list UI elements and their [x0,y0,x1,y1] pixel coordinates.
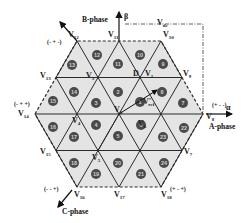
region-4: 4 [91,120,101,130]
region-5: 5 [113,131,123,141]
svg-text:V16: V16 [74,190,85,200]
svg-text:D: D [133,69,139,78]
svg-text:V7: V7 [184,147,193,157]
region-22: 22 [179,123,189,133]
svg-text:19: 19 [93,171,99,177]
region-14: 14 [69,87,79,97]
c-phase-label: C-phase [62,207,89,216]
svg-text:23: 23 [160,134,166,140]
svg-text:V17: V17 [114,190,125,200]
a-phase-label: A-phase [209,122,236,131]
svg-text:22: 22 [181,125,187,131]
region-18: 18 [69,158,79,168]
region-2: 2 [113,87,123,97]
c-phase-arrow [58,190,72,207]
region-17: 17 [69,132,79,142]
region-21: 21 [136,169,146,179]
svg-text:10: 10 [137,52,143,58]
svg-text:18: 18 [71,160,77,166]
svg-text:14: 14 [71,89,78,95]
svg-text:V13: V13 [40,71,51,81]
region-23: 23 [158,132,168,142]
svg-text:(- + +): (- + +) [14,101,30,108]
svg-text:7: 7 [181,100,184,106]
svg-text:13: 13 [69,62,75,68]
svg-text:20: 20 [115,160,121,166]
region-16: 16 [48,122,58,132]
svg-text:V11: V11 [108,30,119,40]
region-20: 20 [113,158,123,168]
region-24: 24 [159,158,169,168]
region-3: 3 [91,98,101,108]
svg-text:Vdc: Vdc [157,18,169,28]
svg-text:11: 11 [115,61,121,67]
region-8: 8 [157,87,167,97]
region-10: 10 [135,50,145,60]
svg-text:8: 8 [160,89,163,95]
svg-text:V9: V9 [183,69,192,79]
svg-text:α: α [226,103,231,112]
svg-text:21: 21 [138,171,144,177]
svg-text:16: 16 [50,124,56,130]
svg-text:V14: V14 [18,109,29,119]
svg-text:(+ - +): (+ - +) [170,186,186,193]
svg-text:17: 17 [71,134,77,140]
region-15: 15 [48,96,58,106]
region-12: 12 [92,50,102,60]
svg-text:2: 2 [116,89,119,95]
region-13: 13 [67,60,77,70]
svg-text:3: 3 [94,100,97,106]
region-9: 9 [158,59,168,69]
svg-text:(- - +): (- - +) [44,186,58,193]
svg-text:9: 9 [161,61,164,67]
svg-text:(+ - -): (+ - -) [212,102,226,109]
space-vector-diagram: 13 12 11 10 9 15 14 3 2 1 8 7 16 17 4 5 … [0,0,248,223]
svg-text:V15: V15 [40,147,51,157]
b-phase-label: B-phase [82,15,109,24]
region-19: 19 [91,169,101,179]
svg-text:V10: V10 [163,30,174,40]
svg-text:V12: V12 [68,30,79,40]
svg-text:5: 5 [116,133,119,139]
svg-text:15: 15 [50,98,56,104]
region-7: 7 [178,98,188,108]
svg-text:24: 24 [161,160,168,166]
region-11: 11 [113,59,123,69]
svg-text:(- + -): (- + -) [47,39,61,46]
svg-text:β: β [124,12,128,21]
svg-text:12: 12 [94,52,100,58]
